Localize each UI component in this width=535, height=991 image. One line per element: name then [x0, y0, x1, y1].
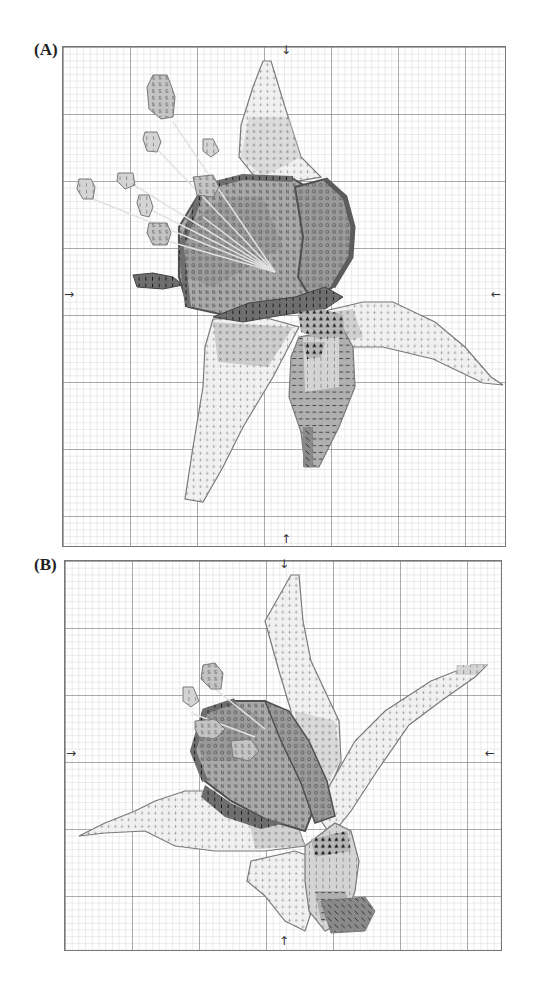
arrow-left-a: →: [64, 288, 74, 300]
arrow-bottom-b: ↑: [279, 935, 289, 947]
chart-panel-a: + × N O I S I: [62, 46, 506, 547]
panel-b-drawing: [65, 561, 501, 950]
arrow-top-b: ↓: [279, 558, 289, 570]
arrow-right-b: ←: [485, 747, 495, 759]
panel-label-b: (B): [34, 555, 57, 575]
arrow-top-a: ↓: [281, 44, 291, 56]
panel-label-a: (A): [34, 40, 58, 60]
chart-panel-b: ↓ ↑ → ←: [64, 560, 502, 951]
arrow-left-b: →: [66, 747, 76, 759]
panel-a-drawing: + × N O I S I: [63, 47, 505, 546]
arrow-bottom-a: ↑: [281, 533, 291, 545]
arrow-right-a: ←: [491, 288, 501, 300]
